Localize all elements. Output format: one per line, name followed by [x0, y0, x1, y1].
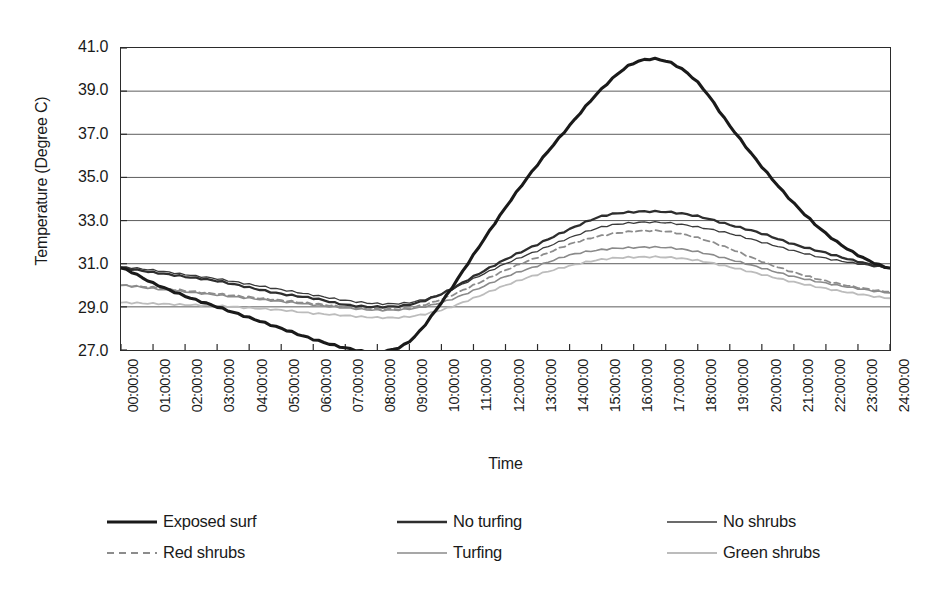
legend-item: Green shrubs — [666, 543, 906, 562]
legend-item: Red shrubs — [106, 543, 396, 562]
y-tick-label: 41.0 — [48, 39, 108, 55]
medium-black-line-swatch — [396, 515, 448, 529]
light-gray-line-swatch — [666, 546, 718, 560]
x-tick-label: 07:00:00 — [351, 359, 366, 412]
medium-gray-line-swatch — [396, 546, 448, 560]
x-tick-label: 12:00:00 — [512, 359, 527, 412]
legend-item: Exposed surf — [106, 512, 396, 531]
series-line-no-turfing — [121, 211, 890, 308]
legend-label: No shrubs — [723, 512, 796, 531]
legend-item: No turfing — [396, 512, 666, 531]
x-tick-label: 22:00:00 — [833, 359, 848, 412]
y-tick-label: 37.0 — [48, 126, 108, 142]
x-tick-label: 02:00:00 — [190, 359, 205, 412]
legend-label: Turfing — [453, 543, 502, 562]
dashed-gray-line-swatch — [106, 546, 158, 560]
y-tick-label: 35.0 — [48, 169, 108, 185]
legend-label: Red shrubs — [163, 543, 245, 562]
x-tick-label: 18:00:00 — [704, 359, 719, 412]
x-tick-label: 14:00:00 — [576, 359, 591, 412]
x-tick-label: 19:00:00 — [736, 359, 751, 412]
temperature-time-line-chart: Temperature (Degree C) 41.039.037.035.03… — [0, 0, 925, 594]
x-tick-label: 20:00:00 — [769, 359, 784, 412]
y-axis-tick-labels: 41.039.037.035.033.031.029.027.0 — [46, 0, 108, 594]
chart-legend: Exposed surfNo turfingNo shrubsRed shrub… — [106, 506, 906, 568]
legend-label: Exposed surf — [163, 512, 256, 531]
x-tick-label: 10:00:00 — [447, 359, 462, 412]
thin-dark-line-swatch — [666, 515, 718, 529]
legend-label: No turfing — [453, 512, 522, 531]
series-line-red-shrubs — [121, 230, 890, 310]
x-tick-label: 23:00:00 — [865, 359, 880, 412]
x-axis-title: Time — [120, 455, 891, 473]
x-tick-label: 11:00:00 — [479, 359, 494, 411]
series-line-no-shrubs — [121, 222, 890, 305]
plot-area — [120, 47, 891, 351]
y-tick-label: 27.0 — [48, 343, 108, 359]
plot-svg — [121, 48, 890, 350]
legend-label: Green shrubs — [723, 543, 820, 562]
y-tick-label: 29.0 — [48, 300, 108, 316]
x-tick-label: 00:00:00 — [126, 359, 141, 412]
x-tick-label: 13:00:00 — [544, 359, 559, 412]
y-tick-label: 33.0 — [48, 213, 108, 229]
x-tick-label: 03:00:00 — [222, 359, 237, 412]
x-tick-label: 08:00:00 — [383, 359, 398, 412]
thick-black-line-swatch — [106, 515, 158, 529]
y-tick-label: 39.0 — [48, 82, 108, 98]
x-tick-label: 06:00:00 — [319, 359, 334, 412]
x-tick-label: 17:00:00 — [672, 359, 687, 412]
x-tick-label: 09:00:00 — [415, 359, 430, 412]
x-tick-label: 05:00:00 — [287, 359, 302, 412]
x-tick-label: 21:00:00 — [801, 359, 816, 412]
x-tick-label: 04:00:00 — [255, 359, 270, 412]
x-tick-label: 01:00:00 — [158, 359, 173, 412]
x-tick-label: 16:00:00 — [640, 359, 655, 412]
x-tick-label: 24:00:00 — [897, 359, 912, 412]
legend-item: No shrubs — [666, 512, 906, 531]
x-axis-tick-labels: 00:00:0001:00:0002:00:0003:00:0004:00:00… — [120, 351, 891, 461]
legend-item: Turfing — [396, 543, 666, 562]
y-tick-label: 31.0 — [48, 256, 108, 272]
x-tick-label: 15:00:00 — [608, 359, 623, 412]
series-line-green-shrubs — [121, 256, 890, 318]
